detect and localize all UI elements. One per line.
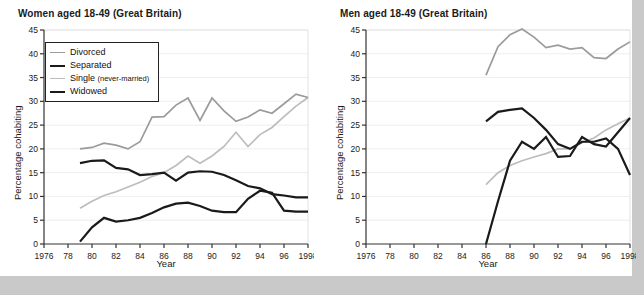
y-tick-label-40: 40: [29, 49, 39, 59]
y-tick-label-15: 15: [29, 168, 39, 178]
y-tick-label-10: 10: [29, 191, 39, 201]
y-tick-label-15: 15: [351, 168, 361, 178]
y-tick-label-35: 35: [351, 73, 361, 83]
legend-item-separated: Separated: [50, 59, 152, 72]
legend-label: Single (never-married): [70, 73, 149, 84]
legend-swatch-separated: [50, 65, 65, 67]
y-tick-label-25: 25: [351, 120, 361, 130]
y-tick-label-30: 30: [29, 96, 39, 106]
legend-item-widowed: Widowed: [50, 85, 152, 98]
series-line-divorced: [80, 94, 308, 149]
legend-swatch-divorced: [50, 52, 65, 53]
series-line-single: [80, 98, 308, 209]
chart-panel-women: Women aged 18-49 (Great Britain) 0510152…: [0, 0, 322, 276]
y-tick-label-30: 30: [351, 96, 361, 106]
legend-item-divorced: Divorced: [50, 46, 152, 59]
chart-title-men: Men aged 18-49 (Great Britain): [340, 8, 487, 19]
y-tick-label-5: 5: [33, 215, 38, 225]
y-tick-label-0: 0: [355, 239, 360, 249]
legend-swatch-widowed: [50, 91, 65, 93]
y-tick-label-25: 25: [29, 120, 39, 130]
legend-label-sub: (never-married): [98, 74, 150, 83]
series-line-divorced: [486, 29, 630, 75]
legend-item-single: Single (never-married): [50, 72, 152, 85]
plot-svg-men: 0510152025303540451976788082848688909294…: [340, 22, 636, 274]
y-tick-label-20: 20: [29, 144, 39, 154]
legend-swatch-single: [50, 78, 65, 79]
y-tick-label-20: 20: [351, 144, 361, 154]
x-axis-label-women: Year: [18, 258, 314, 269]
plot-border: [366, 30, 630, 244]
y-axis-label-women: Percentage cohabiting: [12, 70, 23, 200]
y-tick-label-35: 35: [29, 73, 39, 83]
chart-panel-men: Men aged 18-49 (Great Britain) 051015202…: [322, 0, 644, 276]
y-tick-label-5: 5: [355, 215, 360, 225]
legend-label: Widowed: [70, 86, 107, 97]
y-axis-label-men: Percentage cohabiting: [334, 70, 345, 200]
x-axis-label-men: Year: [340, 258, 636, 269]
screenshot-root: Women aged 18-49 (Great Britain) 0510152…: [0, 0, 644, 295]
series-line-widowed: [486, 118, 630, 244]
chart-title-women: Women aged 18-49 (Great Britain): [18, 8, 182, 19]
legend-women: DivorcedSeparatedSingle (never-married)W…: [45, 42, 159, 102]
y-tick-label-45: 45: [351, 25, 361, 35]
y-tick-label-40: 40: [351, 49, 361, 59]
y-tick-label-0: 0: [33, 239, 38, 249]
y-tick-label-45: 45: [29, 25, 39, 35]
legend-label: Separated: [70, 60, 112, 71]
legend-label: Divorced: [70, 47, 106, 58]
y-tick-label-10: 10: [351, 191, 361, 201]
series-line-single: [486, 118, 630, 185]
series-line-widowed: [80, 191, 308, 242]
plot-area-men: 0510152025303540451976788082848688909294…: [340, 22, 636, 274]
